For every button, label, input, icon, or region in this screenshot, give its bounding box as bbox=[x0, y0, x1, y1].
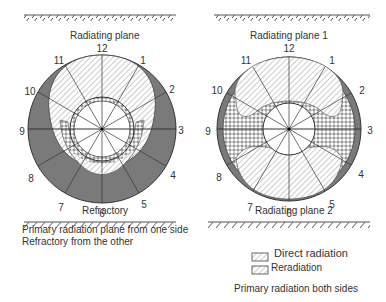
right-clock-8: 8 bbox=[216, 172, 222, 183]
left-clock-2: 2 bbox=[169, 84, 175, 95]
right-top-plane bbox=[214, 15, 370, 21]
right-clock-1: 1 bbox=[329, 55, 335, 66]
right-clock-5: 5 bbox=[329, 199, 335, 210]
legend-reradiation-label: Reradiation bbox=[271, 262, 322, 273]
right-clock-6: 6 bbox=[286, 208, 292, 219]
right-clock-9: 9 bbox=[205, 126, 211, 137]
left-clock-1: 1 bbox=[140, 55, 146, 66]
right-top-label: Radiating plane 1 bbox=[250, 30, 328, 41]
left-top-label: Radiating plane bbox=[70, 30, 140, 41]
right-clock-7: 7 bbox=[247, 202, 253, 213]
right-bottom-label: Radiating plane 2 bbox=[255, 205, 333, 216]
left-clock-4: 4 bbox=[170, 170, 176, 181]
right-clock-2: 2 bbox=[359, 85, 365, 96]
legend-swatch-reradiation bbox=[252, 266, 268, 274]
right-clock-10: 10 bbox=[211, 85, 222, 96]
left-clock-3: 3 bbox=[178, 125, 184, 136]
left-tube-cross-section bbox=[28, 55, 176, 203]
right-clock-11: 11 bbox=[241, 55, 251, 66]
legend-direct-label: Direct radiation bbox=[274, 247, 348, 259]
legend-swatch-direct bbox=[252, 253, 268, 261]
right-clock-3: 3 bbox=[367, 125, 373, 136]
right-clock-12: 12 bbox=[283, 43, 294, 54]
left-clock-11: 11 bbox=[54, 55, 64, 66]
right-tube-cross-section bbox=[217, 57, 361, 201]
right-caption: Primary radiation both sides bbox=[234, 283, 358, 294]
left-clock-8: 8 bbox=[28, 173, 34, 184]
left-clock-10: 10 bbox=[24, 86, 35, 97]
left-clock-9: 9 bbox=[19, 126, 25, 137]
left-clock-7: 7 bbox=[58, 202, 64, 213]
left-top-plane bbox=[24, 15, 176, 21]
right-clock-4: 4 bbox=[358, 169, 364, 180]
right-bottom-plane bbox=[208, 222, 370, 228]
left-caption-line2: Refractory from the other bbox=[22, 236, 133, 247]
left-clock-5: 5 bbox=[141, 199, 147, 210]
left-caption-line1: Primary radiation plane from one side bbox=[22, 224, 188, 235]
left-clock-12: 12 bbox=[96, 43, 107, 54]
left-clock-6: 6 bbox=[99, 208, 105, 219]
